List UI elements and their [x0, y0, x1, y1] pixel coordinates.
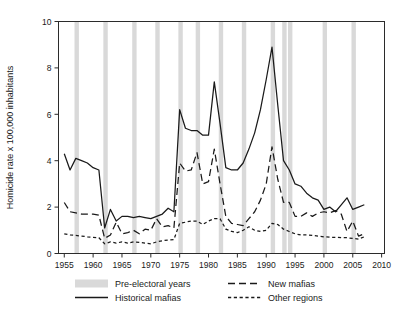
pre-electoral-band [178, 22, 182, 254]
legend-label: Other regions [268, 293, 323, 303]
x-tick-label: 1985 [228, 260, 247, 270]
pre-electoral-band [323, 22, 327, 254]
y-axis-title: Homicide rate x 100,000 inhabitants [5, 65, 15, 209]
pre-electoral-band [242, 22, 246, 254]
x-tick-label: 1995 [286, 260, 305, 270]
x-tick-label: 1955 [55, 260, 74, 270]
x-tick-label: 1965 [113, 260, 132, 270]
chart-figure: 1955196019651970197519801985199019952000… [0, 0, 411, 318]
legend-swatch-pre-electoral [75, 280, 108, 288]
y-tick-label: 0 [47, 249, 52, 259]
legend-label: Historical mafias [115, 293, 182, 303]
x-tick-label: 2005 [343, 260, 362, 270]
y-tick-label: 6 [47, 110, 52, 120]
legend-label: New mafias [268, 279, 316, 289]
figure-background [0, 0, 411, 318]
y-tick-label: 8 [47, 63, 52, 73]
pre-electoral-band [282, 22, 286, 254]
homicide-rate-line-chart: 1955196019651970197519801985199019952000… [0, 0, 411, 318]
y-tick-label: 10 [42, 17, 52, 27]
x-tick-label: 1990 [257, 260, 276, 270]
pre-electoral-band [75, 22, 79, 254]
x-tick-label: 2010 [372, 260, 391, 270]
y-tick-label: 2 [47, 202, 52, 212]
x-tick-label: 1970 [141, 260, 160, 270]
x-tick-label: 1960 [84, 260, 103, 270]
pre-electoral-band [132, 22, 136, 254]
pre-electoral-band [351, 22, 355, 254]
x-tick-label: 1980 [199, 260, 218, 270]
x-tick-label: 2000 [314, 260, 333, 270]
pre-electoral-band [288, 22, 292, 254]
y-tick-label: 4 [47, 156, 52, 166]
pre-electoral-band [196, 22, 200, 254]
x-tick-label: 1975 [170, 260, 189, 270]
pre-electoral-band [155, 22, 159, 254]
y-axis-title-text: Homicide rate x 100,000 inhabitants [5, 65, 15, 209]
legend-label: Pre-electoral years [115, 279, 191, 289]
